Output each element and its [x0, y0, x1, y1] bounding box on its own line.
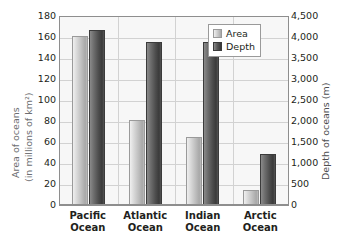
axis-tick-label: 2,500	[291, 95, 318, 105]
category-label: IndianOcean	[174, 210, 232, 234]
axis-tick-label: 3,000	[291, 74, 318, 84]
bar-area	[186, 137, 202, 205]
left-axis-title-line1: Area of oceans	[10, 107, 21, 178]
axis-tick-label: 80	[44, 116, 56, 126]
bar-group	[117, 17, 174, 205]
bar-chart: 180160140120100806040200 4,5004,0003,500…	[0, 0, 340, 243]
axis-tick-label: 100	[38, 95, 56, 105]
category-labels: PacificOceanAtlanticOceanIndianOceanArct…	[59, 210, 289, 234]
legend-swatch-depth-icon	[213, 42, 222, 51]
bar-depth	[260, 154, 276, 205]
category-label: AtlanticOcean	[117, 210, 175, 234]
axis-tick-label: 2,000	[291, 116, 318, 126]
axis-tick-label: 3,500	[291, 53, 318, 63]
bar-depth	[146, 42, 162, 205]
axis-tick-label: 500	[291, 179, 309, 189]
axis-tick-label: 1,000	[291, 158, 318, 168]
legend-label-depth: Depth	[226, 42, 255, 52]
axis-baseline	[60, 204, 288, 205]
axis-tick-label: 60	[44, 137, 56, 147]
axis-tick-label: 1,500	[291, 137, 318, 147]
bar-area	[72, 36, 88, 205]
category-label: ArcticOcean	[232, 210, 290, 234]
axis-tick-label: 160	[38, 32, 56, 42]
legend-swatch-area-icon	[213, 29, 222, 38]
axis-tick-label: 20	[44, 179, 56, 189]
chart-title-clipped	[57, 0, 207, 3]
bar-depth	[89, 30, 105, 205]
category-label: PacificOcean	[59, 210, 117, 234]
bar-area	[243, 190, 259, 205]
axis-tick-label: 120	[38, 74, 56, 84]
axis-tick-label: 0	[50, 200, 56, 210]
axis-tick-label: 4,000	[291, 32, 318, 42]
legend-item-area: Area	[213, 27, 255, 40]
bar-depth	[203, 42, 219, 205]
bar-group	[60, 17, 117, 205]
axis-tick-label: 0	[291, 200, 297, 210]
left-axis-title-line2: (in millions of km²)	[23, 93, 34, 182]
axis-tick-label: 140	[38, 53, 56, 63]
legend-item-depth: Depth	[213, 40, 255, 53]
axis-tick-label: 40	[44, 158, 56, 168]
axis-tick-label: 180	[38, 11, 56, 21]
legend: Area Depth	[208, 24, 261, 57]
axis-tick-label: 4,500	[291, 11, 318, 21]
right-axis-title: Depth of oceans (m)	[320, 83, 331, 181]
legend-label-area: Area	[226, 29, 248, 39]
bar-area	[129, 120, 145, 205]
